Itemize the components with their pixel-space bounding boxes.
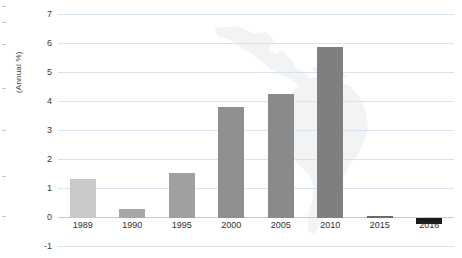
y-tick-label: -1 bbox=[44, 241, 52, 251]
x-tick-label: 2016 bbox=[419, 220, 439, 230]
x-tick-label: 1995 bbox=[172, 220, 192, 230]
y-tick-label: 6 bbox=[47, 38, 52, 48]
y-tick-label: 7 bbox=[47, 9, 52, 19]
y-axis-title: (Annual %) bbox=[14, 51, 23, 93]
bar-group-2015[interactable]: 2015 bbox=[355, 14, 405, 247]
bar-group-1990[interactable]: 1990 bbox=[108, 14, 158, 247]
bar-1995[interactable] bbox=[169, 173, 195, 218]
bar-group-2010[interactable]: 2010 bbox=[306, 14, 356, 247]
y-tick-label: 3 bbox=[47, 125, 52, 135]
bar-2015[interactable] bbox=[367, 216, 393, 219]
x-tick-label: 1989 bbox=[73, 220, 93, 230]
crop-edge-artifacts bbox=[0, 0, 12, 258]
x-tick-label: 2015 bbox=[370, 220, 390, 230]
y-tick-label: 4 bbox=[47, 96, 52, 106]
x-tick-label: 2000 bbox=[221, 220, 241, 230]
plot-area: 7 6 5 4 3 2 1 0 -1 1989 bbox=[58, 14, 454, 247]
chart-screenshot: (Annual %) bbox=[0, 0, 462, 258]
bar-group-2005[interactable]: 2005 bbox=[256, 14, 306, 247]
bar-group-1989[interactable]: 1989 bbox=[58, 14, 108, 247]
y-tick-label: 1 bbox=[47, 183, 52, 193]
x-tick-label: 1990 bbox=[122, 220, 142, 230]
y-tick-label: 2 bbox=[47, 154, 52, 164]
bar-group-2016[interactable]: 2016 bbox=[405, 14, 455, 247]
bar-1989[interactable] bbox=[70, 179, 96, 218]
bar-2005[interactable] bbox=[268, 94, 294, 218]
bar-group-1995[interactable]: 1995 bbox=[157, 14, 207, 247]
bar-1990[interactable] bbox=[119, 209, 145, 218]
y-tick-label: 0 bbox=[47, 212, 52, 222]
bar-group-2000[interactable]: 2000 bbox=[207, 14, 257, 247]
x-tick-label: 2005 bbox=[271, 220, 291, 230]
y-tick-label: 5 bbox=[47, 67, 52, 77]
bar-2010[interactable] bbox=[317, 47, 343, 217]
x-tick-label: 2010 bbox=[320, 220, 340, 230]
bar-2000[interactable] bbox=[218, 107, 244, 218]
